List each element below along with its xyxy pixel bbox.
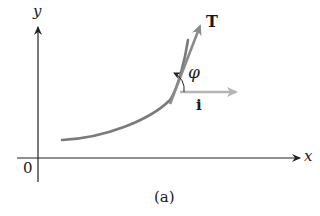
y-axis-label: y — [33, 4, 41, 19]
figure-diagram: y x 0 T φ i (a) — [0, 0, 320, 216]
x-axis-label: x — [304, 149, 312, 164]
unit-vector-label: i — [196, 98, 202, 113]
figure-caption: (a) — [154, 190, 175, 205]
origin-label: 0 — [23, 161, 33, 176]
angle-label: φ — [188, 64, 200, 81]
tangent-label: T — [206, 14, 218, 30]
curve — [62, 40, 188, 140]
diagram-canvas — [0, 0, 320, 216]
